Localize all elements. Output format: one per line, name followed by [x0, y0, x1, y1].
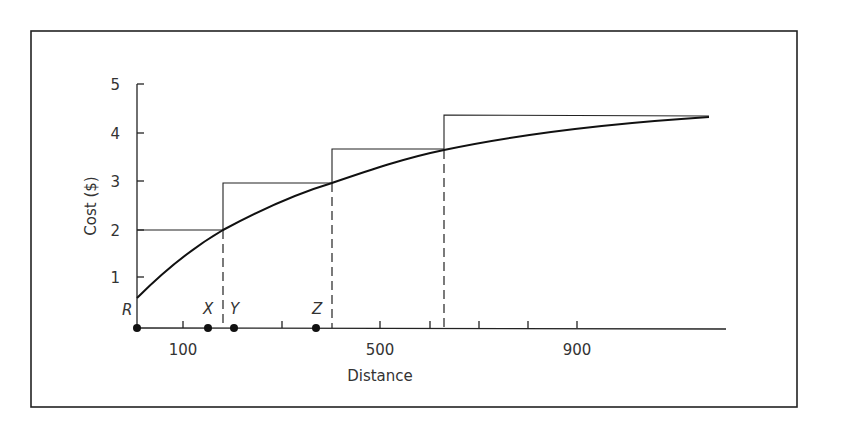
- label-r: R: [122, 301, 132, 319]
- chart-figure: 5 4 3 2 1 Cost ($) 100 500 900 Distance …: [0, 0, 842, 440]
- y-tick-5: 5: [110, 76, 120, 94]
- x-axis: [137, 328, 726, 329]
- x-tick-100: 100: [169, 341, 198, 359]
- y-tick-3: 3: [110, 173, 120, 191]
- step-function-line: [137, 115, 709, 230]
- y-tick-1: 1: [110, 269, 120, 287]
- axes: [137, 84, 726, 329]
- x-tick-900: 900: [563, 341, 592, 359]
- point-z: [312, 324, 320, 332]
- y-axis-label: Cost ($): [82, 176, 100, 235]
- y-tick-4: 4: [110, 125, 120, 143]
- label-y: Y: [230, 300, 241, 318]
- point-y: [230, 324, 238, 332]
- x-tick-500: 500: [366, 341, 395, 359]
- label-x: X: [202, 300, 214, 318]
- point-x: [204, 324, 212, 332]
- x-axis-label: Distance: [347, 367, 413, 385]
- y-tick-2: 2: [110, 222, 120, 240]
- dashed-guides: [223, 150, 444, 328]
- label-z: Z: [311, 300, 323, 318]
- figure-frame: [31, 31, 797, 407]
- point-r: [133, 324, 141, 332]
